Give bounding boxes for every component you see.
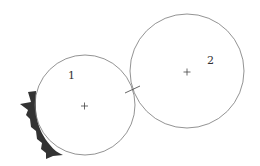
circle-2-label: 2 (207, 54, 214, 67)
center-marker-1 (81, 103, 88, 110)
circle-1-label: 1 (68, 69, 75, 82)
wear-region-shape (20, 91, 63, 159)
circle-1 (35, 55, 135, 155)
diagram-canvas: 1 2 (0, 0, 260, 166)
center-marker-2 (184, 69, 191, 76)
